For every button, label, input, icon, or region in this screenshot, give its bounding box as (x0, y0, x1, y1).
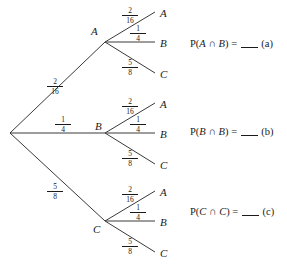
intersection-icon: ∩ (206, 38, 219, 49)
branch-prob-b-c-2-denominator: 8 (122, 158, 138, 167)
equation-b-answer-blank[interactable] (241, 135, 258, 136)
equation-c: P(C ∩ C) = (c) (190, 206, 274, 218)
branch-prob-a-b-1-denominator: 4 (130, 33, 146, 42)
leaf-c-b-1: B (160, 217, 167, 228)
node-c: C (93, 224, 100, 235)
branch-prob-root-b: 14 (55, 116, 71, 133)
branch-prob-a-b-1-numerator: 1 (130, 25, 146, 33)
equation-c-answer-blank[interactable] (242, 215, 259, 216)
equation-c-prefix: P( (190, 206, 199, 217)
equation-a-equals: ) = (225, 38, 240, 49)
branch-prob-c-b-1-denominator: 4 (130, 212, 146, 221)
leaf-b-b-1: B (160, 129, 167, 140)
equation-a-prefix: P( (190, 38, 199, 49)
leaf-a-b-1: B (160, 38, 167, 49)
equation-b-part-label: (b) (259, 126, 274, 137)
equation-b-equals: ) = (225, 126, 240, 137)
intersection-icon: ∩ (206, 126, 219, 137)
leaf-c-c-2: C (160, 248, 167, 259)
branch-prob-root-b-denominator: 4 (55, 124, 71, 133)
branch-prob-a-b-1: 14 (130, 25, 146, 42)
branch-prob-root-a-denominator: 16 (47, 86, 63, 95)
equation-b: P(B ∩ B) = (b) (190, 126, 274, 138)
branch-prob-c-a-0: 216 (122, 186, 138, 203)
leaf-a-a-0: A (160, 8, 167, 19)
branch-prob-a-a-0: 216 (122, 7, 138, 24)
branch-prob-b-c-2-numerator: 5 (122, 150, 138, 158)
branch-prob-a-a-0-numerator: 2 (122, 7, 138, 15)
equation-a-part-label: (a) (259, 38, 273, 49)
leaf-b-a-0: A (160, 99, 167, 110)
branch-prob-root-a-numerator: 2 (47, 78, 63, 86)
branch-prob-c-c-2-denominator: 8 (122, 246, 138, 255)
leaf-a-c-2: C (160, 69, 167, 80)
branch-prob-b-a-0: 216 (122, 98, 138, 115)
equation-a-answer-blank[interactable] (241, 47, 258, 48)
branch-prob-root-c-denominator: 8 (47, 191, 63, 200)
intersection-icon: ∩ (206, 206, 219, 217)
branch-prob-root-c-numerator: 5 (47, 183, 63, 191)
branch-prob-c-b-1: 14 (130, 204, 146, 221)
branch-prob-c-b-1-numerator: 1 (130, 204, 146, 212)
branch-prob-c-a-0-denominator: 16 (122, 194, 138, 203)
branch-prob-a-c-2: 58 (122, 59, 138, 76)
branch-prob-a-c-2-numerator: 5 (122, 59, 138, 67)
leaf-b-c-2: C (160, 160, 167, 171)
branch-prob-b-a-0-denominator: 16 (122, 106, 138, 115)
equation-a: P(A ∩ B) = (a) (190, 38, 273, 50)
branch-prob-a-c-2-denominator: 8 (122, 67, 138, 76)
branch-prob-c-c-2-numerator: 5 (122, 238, 138, 246)
branch-prob-c-c-2: 58 (122, 238, 138, 255)
equation-c-part-label: (c) (260, 206, 274, 217)
branch-prob-c-a-0-numerator: 2 (122, 186, 138, 194)
leaf-c-a-0: A (160, 187, 167, 198)
branch-prob-a-a-0-denominator: 16 (122, 15, 138, 24)
branch-prob-b-c-2: 58 (122, 150, 138, 167)
equation-b-prefix: P( (190, 126, 199, 137)
branch-prob-root-c: 58 (47, 183, 63, 200)
branch-prob-b-b-1: 14 (130, 116, 146, 133)
node-a: A (91, 26, 98, 37)
branch-prob-b-b-1-numerator: 1 (130, 116, 146, 124)
branch-prob-root-b-numerator: 1 (55, 116, 71, 124)
equation-c-equals: ) = (226, 206, 241, 217)
branch-root-to-c (10, 133, 105, 221)
node-b: B (95, 121, 102, 132)
branch-prob-b-b-1-denominator: 4 (130, 124, 146, 133)
branch-prob-root-a: 216 (47, 78, 63, 95)
branch-prob-b-a-0-numerator: 2 (122, 98, 138, 106)
